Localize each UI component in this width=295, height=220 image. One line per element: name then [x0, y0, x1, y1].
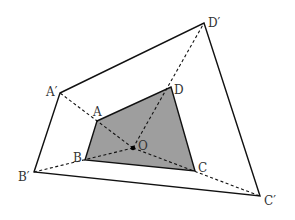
- label-a-prime: A′: [45, 85, 58, 99]
- label-o: O: [138, 139, 148, 153]
- label-b: B: [73, 151, 82, 165]
- homothety-diagram: O A B C D A′ B′ C′ D′: [0, 0, 295, 220]
- label-c-prime: C′: [264, 194, 276, 208]
- label-d: D: [174, 83, 184, 97]
- label-a: A: [92, 105, 102, 119]
- label-b-prime: B′: [18, 170, 30, 184]
- label-c: C: [198, 161, 207, 175]
- label-d-prime: D′: [208, 16, 221, 30]
- center-point-o: [131, 146, 136, 151]
- inner-quadrilateral: [85, 87, 195, 171]
